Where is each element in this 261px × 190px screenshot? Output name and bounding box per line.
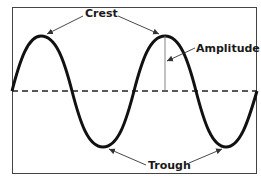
trough-arrow-right — [189, 149, 222, 163]
trough-label: Trough — [148, 159, 191, 172]
crest-arrow-right — [118, 16, 159, 34]
crest-arrow-left — [47, 16, 83, 34]
wave-diagram: Crest Amplitude Trough — [0, 0, 261, 190]
crest-label: Crest — [85, 7, 118, 20]
trough-arrow-left — [109, 149, 146, 165]
amplitude-label: Amplitude — [196, 42, 260, 55]
